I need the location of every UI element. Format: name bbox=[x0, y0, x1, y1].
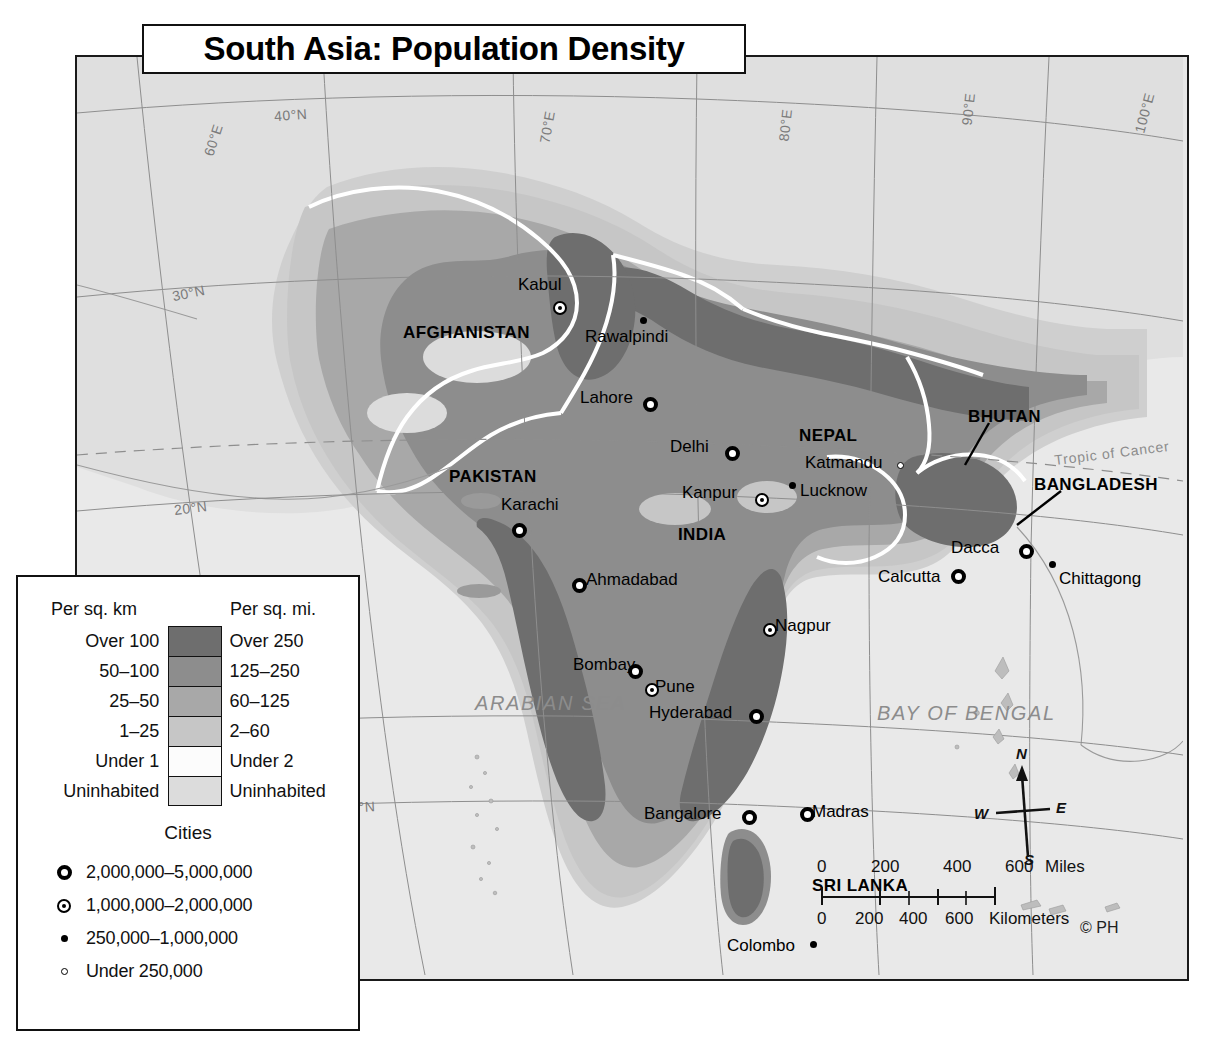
city-dot-karachi[interactable] bbox=[512, 523, 527, 538]
legend-city-row: Under 250,000 bbox=[42, 955, 358, 988]
country-label-afghanistan: AFGHANISTAN bbox=[403, 323, 530, 343]
city-label-calcutta: Calcutta bbox=[878, 567, 940, 587]
city-dot-lahore[interactable] bbox=[643, 397, 658, 412]
legend-mi-label: Uninhabited bbox=[222, 776, 358, 806]
city-dot-delhi[interactable] bbox=[725, 446, 740, 461]
scale-km-tick: 0 bbox=[817, 909, 826, 929]
country-label-nepal: NEPAL bbox=[799, 426, 857, 446]
scale-km-tick: 200 bbox=[855, 909, 883, 929]
graticule-label: 90°E bbox=[959, 92, 978, 126]
legend-swatch bbox=[168, 716, 221, 746]
legend-row: Over 100 Over 250 bbox=[40, 626, 358, 656]
city-dot-rawalpindi[interactable] bbox=[640, 317, 647, 324]
legend-headers: Per sq. km Per sq. mi. bbox=[18, 577, 358, 626]
city-label-kabul: Kabul bbox=[518, 275, 561, 295]
country-label-bangladesh: BANGLADESH bbox=[1034, 475, 1158, 495]
legend-mi-label: 60–125 bbox=[222, 686, 358, 716]
legend-city-row: 2,000,000–5,000,000 bbox=[42, 856, 358, 889]
city-label-nagpur: Nagpur bbox=[775, 616, 831, 636]
city-dot-calcutta[interactable] bbox=[951, 569, 966, 584]
legend-class-rows: Over 100 Over 250 50–100 125–250 25–50 6… bbox=[18, 626, 358, 806]
city-label-pune: Pune bbox=[655, 677, 695, 697]
legend-mi-label: 125–250 bbox=[222, 656, 358, 686]
legend-city-label: 2,000,000–5,000,000 bbox=[86, 862, 252, 883]
scale-ruler bbox=[817, 881, 1077, 907]
legend-city-rows: 2,000,000–5,000,000 1,000,000–2,000,000 … bbox=[18, 856, 358, 988]
city-symbol-tiny-icon bbox=[42, 968, 86, 975]
legend-mi-label: Over 250 bbox=[222, 626, 358, 656]
legend-swatch bbox=[168, 626, 221, 656]
city-symbol-large-icon bbox=[42, 865, 86, 880]
legend-row: 25–50 60–125 bbox=[40, 686, 358, 716]
legend-km-label: 25–50 bbox=[40, 686, 168, 716]
city-dot-bombay[interactable] bbox=[628, 664, 643, 679]
legend-row: 1–25 2–60 bbox=[40, 716, 358, 746]
scale-km-unit: Kilometers bbox=[989, 909, 1069, 929]
legend-city-label: 250,000–1,000,000 bbox=[86, 928, 238, 949]
sea-label-arabian: ARABIAN SEA bbox=[475, 692, 626, 715]
city-symbol-small-icon bbox=[42, 935, 86, 942]
city-label-katmandu: Katmandu bbox=[805, 453, 883, 473]
scale-km-tick: 600 bbox=[945, 909, 973, 929]
city-label-madras: Madras bbox=[812, 802, 869, 822]
country-label-pakistan: PAKISTAN bbox=[449, 467, 537, 487]
sea-label-bengal: BAY OF BENGAL bbox=[877, 702, 1056, 725]
legend-cities-title: Cities bbox=[18, 822, 358, 844]
legend-km-label: Uninhabited bbox=[40, 776, 168, 806]
scale-bar: 0 200 400 600 Miles 0 200 400 600 Kilome… bbox=[817, 857, 1137, 947]
city-dot-ahmadabad[interactable] bbox=[572, 578, 587, 593]
city-label-bombay: Bombay bbox=[573, 655, 635, 675]
city-dot-colombo[interactable] bbox=[810, 941, 817, 948]
city-dot-bangalore[interactable] bbox=[742, 810, 757, 825]
city-label-colombo: Colombo bbox=[727, 936, 795, 956]
map-title-text: South Asia: Population Density bbox=[203, 30, 684, 68]
city-dot-kabul[interactable] bbox=[553, 301, 567, 315]
city-dot-nagpur[interactable] bbox=[763, 623, 777, 637]
country-label-india: INDIA bbox=[678, 525, 726, 545]
map-legend: Per sq. km Per sq. mi. Over 100 Over 250… bbox=[16, 575, 360, 1031]
legend-km-label: Under 1 bbox=[40, 746, 168, 776]
city-symbol-medium-icon bbox=[42, 899, 86, 913]
scale-miles-tick: 400 bbox=[943, 857, 971, 877]
legend-swatch bbox=[168, 686, 221, 716]
compass-label-n: N bbox=[1016, 745, 1027, 762]
legend-mi-label: Under 2 bbox=[222, 746, 358, 776]
legend-km-label: 1–25 bbox=[40, 716, 168, 746]
legend-swatch bbox=[168, 746, 221, 776]
scale-miles-tick: 200 bbox=[871, 857, 899, 877]
legend-row: 50–100 125–250 bbox=[40, 656, 358, 686]
city-label-delhi: Delhi bbox=[670, 437, 709, 457]
city-label-dacca: Dacca bbox=[951, 538, 999, 558]
city-label-bangalore: Bangalore bbox=[644, 804, 722, 824]
legend-city-label: Under 250,000 bbox=[86, 961, 203, 982]
legend-city-label: 1,000,000–2,000,000 bbox=[86, 895, 252, 916]
scale-miles-tick: 0 bbox=[817, 857, 826, 877]
graticule-label: 80°E bbox=[776, 108, 795, 142]
legend-swatch bbox=[168, 776, 221, 806]
city-label-ahmadabad: Ahmadabad bbox=[586, 570, 678, 590]
city-label-lucknow: Lucknow bbox=[800, 481, 867, 501]
map-page: 60°E 70°E 80°E 90°E 100°E 40°N 30°N 20°N… bbox=[0, 0, 1219, 1043]
legend-row: Under 1 Under 2 bbox=[40, 746, 358, 776]
city-dot-pune[interactable] bbox=[645, 683, 659, 697]
city-label-rawalpindi: Rawalpindi bbox=[585, 327, 668, 347]
city-dot-madras[interactable] bbox=[800, 807, 815, 822]
city-dot-katmandu[interactable] bbox=[897, 462, 904, 469]
city-dot-kanpur[interactable] bbox=[755, 493, 769, 507]
scale-miles-unit: Miles bbox=[1045, 857, 1085, 877]
legend-km-label: 50–100 bbox=[40, 656, 168, 686]
city-dot-hyderabad[interactable] bbox=[749, 709, 764, 724]
graticule-label: 40°N bbox=[273, 106, 307, 124]
legend-header-spacer bbox=[170, 599, 230, 620]
city-label-lahore: Lahore bbox=[580, 388, 633, 408]
legend-header-mi: Per sq. mi. bbox=[230, 599, 350, 620]
legend-city-row: 1,000,000–2,000,000 bbox=[42, 889, 358, 922]
legend-header-km: Per sq. km bbox=[18, 599, 170, 620]
map-title: South Asia: Population Density bbox=[142, 24, 746, 74]
legend-swatch bbox=[168, 656, 221, 686]
city-dot-chittagong[interactable] bbox=[1049, 561, 1056, 568]
city-label-karachi: Karachi bbox=[501, 495, 559, 515]
city-label-hyderabad: Hyderabad bbox=[649, 703, 732, 723]
city-dot-dacca[interactable] bbox=[1019, 544, 1034, 559]
city-dot-lucknow[interactable] bbox=[789, 482, 796, 489]
